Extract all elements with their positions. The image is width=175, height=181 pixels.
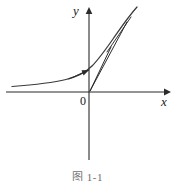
secant-line-inner: [90, 47, 111, 91]
y-axis-arrowhead: [86, 7, 93, 14]
exponential-curve: [12, 7, 137, 87]
leader-arrow-annotation: [69, 70, 89, 79]
tangent-line: [107, 17, 131, 52]
origin-label: 0: [80, 94, 86, 108]
y-axis: [86, 7, 93, 160]
figure-container: y x 0 图 1-1: [0, 0, 175, 181]
figure-caption: 图 1-1: [0, 171, 175, 181]
math-figure-diagram: y x 0: [0, 0, 175, 181]
secant-line-outer: [90, 22, 127, 91]
leader-arrow-head: [82, 70, 90, 76]
y-axis-label: y: [71, 3, 79, 18]
x-axis-label: x: [160, 94, 167, 109]
